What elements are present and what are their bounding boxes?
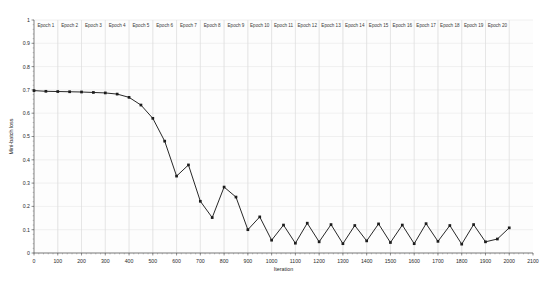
loss-data-point <box>211 216 214 219</box>
x-tick-label-9: 900 <box>244 258 253 264</box>
x-tick-label-21: 2100 <box>527 258 539 264</box>
loss-data-point <box>460 243 463 246</box>
loss-data-point <box>151 117 154 120</box>
loss-data-point <box>45 90 48 93</box>
epoch-label-8: Epoch 8 <box>204 23 221 28</box>
loss-data-point <box>270 239 273 242</box>
y-tick-label-3: 0.3 <box>23 180 30 186</box>
loss-data-point <box>377 223 380 226</box>
x-tick-label-19: 1900 <box>480 258 492 264</box>
x-tick-label-13: 1300 <box>337 258 349 264</box>
y-tick-label-8: 0.8 <box>23 64 30 70</box>
x-tick-label-14: 1400 <box>361 258 373 264</box>
loss-data-point <box>68 90 71 93</box>
epoch-label-19: Epoch 19 <box>464 23 484 28</box>
y-tick-label-2: 0.2 <box>23 203 30 209</box>
x-tick-label-11: 1100 <box>290 258 301 264</box>
y-tick-label-5: 0.5 <box>23 133 30 139</box>
epoch-label-13: Epoch 13 <box>321 23 341 28</box>
loss-data-point <box>365 240 368 243</box>
x-tick-label-1: 100 <box>53 258 62 264</box>
epoch-label-15: Epoch 15 <box>369 23 389 28</box>
loss-data-point <box>80 91 83 94</box>
y-tick-label-4: 0.4 <box>23 157 30 163</box>
loss-data-point <box>413 242 416 245</box>
loss-data-point <box>140 104 143 107</box>
epoch-label-3: Epoch 3 <box>85 23 102 28</box>
x-tick-label-18: 1800 <box>456 258 468 264</box>
loss-data-point <box>175 175 178 178</box>
loss-data-point <box>306 222 309 225</box>
x-tick-label-8: 800 <box>220 258 229 264</box>
epoch-label-5: Epoch 5 <box>132 23 149 28</box>
x-tick-label-4: 400 <box>125 258 134 264</box>
y-tick-label-6: 0.6 <box>23 110 30 116</box>
loss-data-point <box>437 240 440 243</box>
epoch-label-20: Epoch 20 <box>488 23 508 28</box>
loss-data-point <box>163 140 166 143</box>
loss-data-point <box>235 196 238 199</box>
x-tick-label-12: 1200 <box>313 258 325 264</box>
loss-data-point <box>484 240 487 243</box>
epoch-label-14: Epoch 14 <box>345 23 365 28</box>
epoch-label-16: Epoch 16 <box>393 23 413 28</box>
y-tick-label-10: 1 <box>27 17 30 23</box>
loss-data-point <box>342 242 345 245</box>
loss-data-point <box>187 164 190 167</box>
y-tick-label-9: 0.9 <box>23 40 30 46</box>
loss-data-point <box>330 223 333 226</box>
y-tick-label-0: 0 <box>27 250 30 256</box>
x-tick-label-17: 1700 <box>432 258 444 264</box>
loss-data-point <box>258 216 261 219</box>
loss-data-point <box>401 224 404 227</box>
loss-data-point <box>496 238 499 241</box>
loss-data-point <box>472 223 475 226</box>
loss-data-point <box>282 224 285 227</box>
loss-data-point <box>425 222 428 225</box>
loss-data-point <box>116 93 119 96</box>
x-tick-label-3: 300 <box>101 258 110 264</box>
epoch-label-18: Epoch 18 <box>440 23 460 28</box>
epoch-label-1: Epoch 1 <box>37 23 54 28</box>
x-tick-label-6: 600 <box>172 258 181 264</box>
epoch-label-4: Epoch 4 <box>109 23 126 28</box>
mini-batch-loss-chart: Epoch 1Epoch 2Epoch 3Epoch 4Epoch 5Epoch… <box>0 0 543 284</box>
epoch-label-12: Epoch 12 <box>298 23 318 28</box>
epoch-label-2: Epoch 2 <box>61 23 78 28</box>
loss-data-point <box>92 91 95 94</box>
loss-data-point <box>33 89 36 92</box>
epoch-label-11: Epoch 11 <box>274 23 294 28</box>
x-tick-label-7: 700 <box>196 258 205 264</box>
x-tick-label-15: 1500 <box>385 258 397 264</box>
x-tick-label-2: 200 <box>77 258 86 264</box>
chart-svg: Epoch 1Epoch 2Epoch 3Epoch 4Epoch 5Epoch… <box>0 0 543 284</box>
loss-data-point <box>247 228 250 231</box>
x-tick-label-16: 1600 <box>408 258 420 264</box>
loss-data-point <box>389 241 392 244</box>
loss-data-point <box>294 242 297 245</box>
loss-data-point <box>223 186 226 189</box>
loss-data-point <box>56 90 59 93</box>
epoch-label-9: Epoch 9 <box>228 23 245 28</box>
loss-data-point <box>448 224 451 227</box>
epoch-label-17: Epoch 17 <box>416 23 436 28</box>
loss-data-point <box>199 200 202 203</box>
loss-data-point <box>353 224 356 227</box>
y-tick-label-7: 0.7 <box>23 87 30 93</box>
x-tick-label-0: 0 <box>33 258 36 264</box>
y-axis-title: Mini-batch loss <box>8 118 14 154</box>
y-tick-label-1: 0.1 <box>23 227 30 233</box>
epoch-label-10: Epoch 10 <box>250 23 270 28</box>
epoch-label-6: Epoch 6 <box>156 23 173 28</box>
x-axis-title: Iteration <box>274 266 293 272</box>
loss-data-point <box>128 96 131 99</box>
loss-data-point <box>508 226 511 229</box>
x-tick-label-5: 500 <box>148 258 157 264</box>
loss-data-point <box>318 240 321 243</box>
epoch-label-7: Epoch 7 <box>180 23 197 28</box>
loss-data-point <box>104 92 107 95</box>
x-tick-label-10: 1000 <box>266 258 278 264</box>
x-tick-label-20: 2000 <box>503 258 515 264</box>
